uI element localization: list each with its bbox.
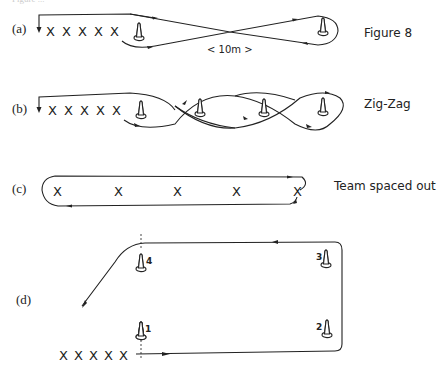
partial-caption: Figure ...	[12, 0, 45, 4]
svg-text:X: X	[119, 348, 128, 363]
cone-icon	[259, 99, 269, 117]
svg-text:X: X	[232, 184, 241, 199]
cone-icon	[318, 98, 328, 116]
svg-text:X: X	[173, 184, 182, 199]
diagram-d-players: X X X X X	[59, 348, 128, 363]
cone-2-icon	[322, 320, 332, 338]
diagram-d-label: (d)	[16, 292, 31, 307]
svg-text:X: X	[104, 348, 113, 363]
cone-numbers: 4 3 1 2	[145, 252, 322, 334]
svg-text:X: X	[80, 103, 89, 118]
svg-text:X: X	[62, 24, 71, 39]
svg-text:X: X	[59, 348, 68, 363]
diagram-a-figure-8: (a) X X X X X < 10m > Figure 8	[12, 14, 412, 55]
svg-text:X: X	[48, 103, 57, 118]
cone-icon	[134, 23, 144, 41]
svg-text:X: X	[89, 348, 98, 363]
diagram-b-title: Zig-Zag	[364, 97, 411, 111]
diagram-b-label: (b)	[12, 101, 27, 116]
diagram-c-title: Team spaced out	[333, 179, 436, 193]
relay-drills-diagram: Figure ... (a) X X X X X < 10m > Figure …	[0, 0, 444, 378]
svg-text:1: 1	[145, 324, 151, 334]
svg-text:3: 3	[316, 252, 322, 262]
diagram-c-label: (c)	[12, 181, 26, 196]
diagram-d-cone-circuit: (d) 4 3 1 2 X X X X X	[16, 234, 342, 363]
svg-text:X: X	[53, 184, 62, 199]
cone-icon	[136, 101, 146, 119]
svg-text:X: X	[114, 184, 123, 199]
svg-text:X: X	[64, 103, 73, 118]
svg-text:X: X	[293, 184, 302, 199]
diagram-a-players: X X X X X	[46, 24, 119, 39]
svg-text:X: X	[78, 24, 87, 39]
svg-text:X: X	[110, 24, 119, 39]
svg-text:2: 2	[316, 322, 322, 332]
cone-icon	[318, 18, 328, 36]
distance-label: < 10m >	[207, 44, 253, 55]
diagram-c-team-spaced-out: (c) X X X X X Team spaced out	[12, 176, 436, 208]
diagram-a-title: Figure 8	[364, 26, 412, 40]
svg-text:4: 4	[146, 256, 152, 266]
cone-icon	[195, 99, 205, 117]
diagram-b-players: X X X X X	[48, 103, 121, 118]
diagram-c-players: X X X X X	[53, 184, 302, 199]
svg-text:X: X	[46, 24, 55, 39]
svg-text:X: X	[74, 348, 83, 363]
cone-3-icon	[321, 250, 331, 268]
diagram-a-label: (a)	[12, 21, 26, 36]
diagram-b-zig-zag: (b) X X X X X Zig-Zag	[12, 91, 411, 130]
cone-4-icon	[136, 254, 146, 272]
svg-text:X: X	[94, 24, 103, 39]
svg-text:X: X	[112, 103, 121, 118]
svg-text:X: X	[96, 103, 105, 118]
